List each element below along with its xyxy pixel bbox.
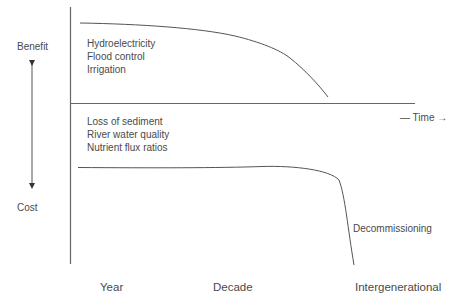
cost-item: Nutrient flux ratios (87, 141, 169, 154)
cost-item: Loss of sediment (87, 115, 169, 128)
cost-item: River water quality (87, 128, 169, 141)
decommissioning-label: Decommissioning (353, 222, 432, 235)
benefit-item: Hydroelectricity (87, 37, 155, 50)
benefit-label: Benefit (17, 40, 48, 53)
cost-label: Cost (17, 201, 38, 214)
benefit-item: Irrigation (87, 63, 155, 76)
benefits-list: Hydroelectricity Flood control Irrigatio… (87, 37, 155, 76)
tick-decade: Decade (213, 281, 253, 293)
diagram-canvas (0, 0, 457, 306)
tick-intergenerational: Intergenerational (355, 281, 441, 293)
costs-list: Loss of sediment River water quality Nut… (87, 115, 169, 154)
benefit-item: Flood control (87, 50, 155, 63)
time-axis-label: — Time → (400, 111, 447, 124)
tick-year: Year (100, 281, 123, 293)
cost-curve (78, 166, 354, 265)
